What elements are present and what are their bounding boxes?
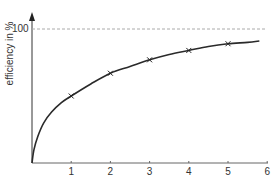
y-tick-label-100: 100 [12,23,29,34]
efficiency-curve [32,41,259,163]
x-tick-label: 1 [68,166,74,177]
x-tick-label: 4 [186,166,192,177]
x-tick-label: 3 [147,166,153,177]
x-tick-label: 6 [264,166,270,177]
x-tick-label: 2 [108,166,114,177]
x-tick-label: 5 [225,166,231,177]
efficiency-chart [0,0,274,179]
x-marker-icon [69,94,74,99]
y-axis-arrow-icon [29,12,35,21]
data-markers [69,41,231,98]
